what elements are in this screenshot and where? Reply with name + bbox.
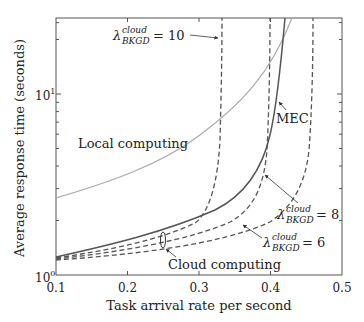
y-axis-label: Average response time (seconds): [12, 39, 27, 258]
svg-text:= 6: = 6: [302, 235, 325, 250]
svg-text:BKGD: BKGD: [271, 243, 300, 253]
annotation-local-computing: Local computing: [78, 136, 188, 151]
svg-text:cloud: cloud: [122, 25, 147, 35]
chart: 0.1 0.2 0.3 0.4 0.5 100 101 Task arrival…: [0, 0, 364, 322]
lambda-8-arrow: [265, 175, 298, 203]
svg-text:0.3: 0.3: [189, 281, 208, 295]
svg-text:λ: λ: [262, 235, 271, 250]
svg-text:101: 101: [35, 87, 55, 103]
svg-text:0.5: 0.5: [332, 281, 351, 295]
svg-text:BKGD: BKGD: [121, 36, 150, 46]
svg-text:λ: λ: [112, 28, 121, 43]
annotation-lambda-6: λ cloud BKGD = 6: [262, 232, 325, 253]
svg-text:0.2: 0.2: [118, 281, 137, 295]
x-axis-label: Task arrival rate per second: [106, 298, 291, 313]
svg-text:= 8: = 8: [316, 207, 339, 222]
svg-text:= 10: = 10: [153, 28, 185, 43]
cloud-arrow: [166, 249, 176, 257]
svg-text:BKGD: BKGD: [285, 215, 314, 225]
y-tick-labels: 100 101: [35, 87, 55, 285]
svg-text:0.4: 0.4: [261, 281, 280, 295]
annotation-mec: MEC: [276, 111, 309, 126]
x-tick-labels: 0.1 0.2 0.3 0.4 0.5: [46, 281, 351, 295]
svg-text:λ: λ: [276, 207, 285, 222]
annotation-lambda-10: λ cloud BKGD = 10: [112, 25, 185, 46]
annotation-cloud-computing: Cloud computing: [168, 257, 281, 272]
mec-arrow: [279, 102, 286, 110]
svg-text:cloud: cloud: [286, 204, 311, 214]
lambda-10-arrow: [190, 35, 218, 38]
annotation-lambda-8: λ cloud BKGD = 8: [276, 204, 339, 225]
svg-text:cloud: cloud: [272, 232, 297, 242]
cloud-computing-marker: [161, 232, 166, 248]
